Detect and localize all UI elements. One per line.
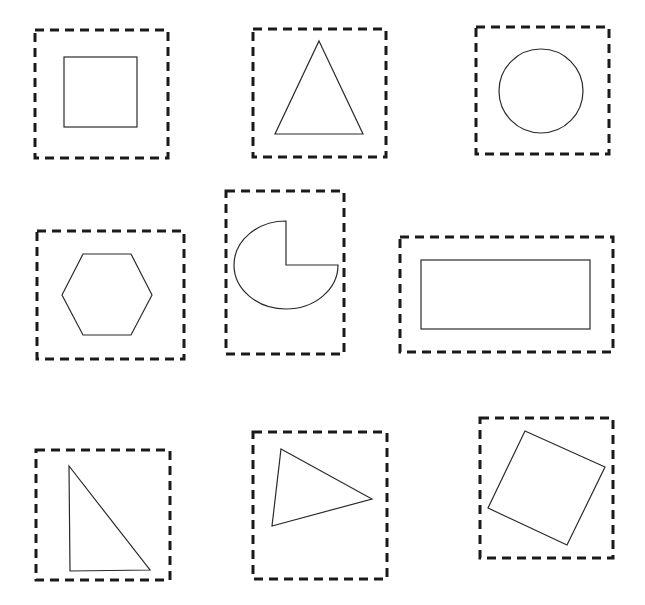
cell-rotated-square xyxy=(480,418,613,558)
scalene-triangle-shape xyxy=(272,449,372,526)
rectangle-shape xyxy=(421,260,590,329)
cell-hexagon xyxy=(37,231,184,359)
shapes-diagram xyxy=(0,0,645,605)
right-triangle-shape xyxy=(69,466,150,571)
hexagon-shape xyxy=(62,254,152,335)
cell-circle xyxy=(476,27,609,154)
circle-shape xyxy=(499,49,583,133)
square-shape xyxy=(64,57,137,127)
triangle-shape xyxy=(275,41,363,134)
cell-right-triangle xyxy=(36,450,170,580)
rotated-square-shape xyxy=(488,431,605,545)
cell-square xyxy=(35,30,168,158)
cell-rectangle xyxy=(400,237,613,352)
cell-triangle xyxy=(253,29,386,157)
cell-pac-shape xyxy=(226,191,344,354)
cell-scalene-triangle xyxy=(253,432,387,579)
pac-shape xyxy=(234,221,338,309)
